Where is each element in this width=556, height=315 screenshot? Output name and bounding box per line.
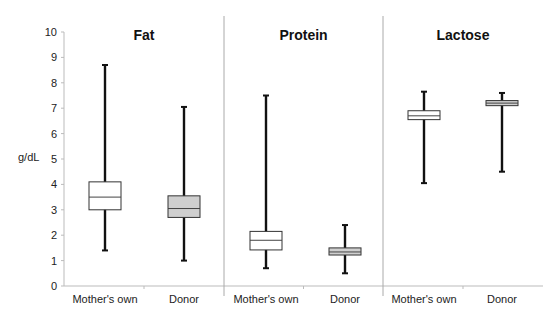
y-axis: 012345678910	[45, 26, 543, 292]
panel-title: Protein	[279, 27, 327, 43]
box-mother-s-own: Mother's own	[72, 65, 137, 305]
iqr-box	[89, 182, 121, 210]
panels: FatMother's ownDonorProteinMother's ownD…	[72, 16, 518, 305]
box-donor: Donor	[168, 107, 200, 305]
y-tick-label: 10	[45, 26, 57, 38]
y-tick-label: 1	[51, 255, 57, 267]
y-tick-label: 5	[51, 153, 57, 165]
y-tick-label: 9	[51, 51, 57, 63]
panel-lactose: LactoseMother's ownDonor	[383, 16, 518, 305]
x-category-label: Mother's own	[233, 293, 298, 305]
panel-protein: ProteinMother's ownDonor	[224, 16, 361, 305]
x-category-label: Donor	[487, 293, 517, 305]
x-category-label: Mother's own	[391, 293, 456, 305]
x-category-label: Donor	[169, 293, 199, 305]
y-tick-label: 8	[51, 77, 57, 89]
boxplot-chart: 012345678910 g/dL FatMother's ownDonorPr…	[0, 0, 556, 315]
panel-fat: FatMother's ownDonor	[72, 27, 200, 305]
y-axis-label: g/dL	[18, 151, 39, 163]
y-tick-label: 4	[51, 178, 57, 190]
x-category-label: Donor	[330, 293, 360, 305]
box-donor: Donor	[486, 93, 518, 305]
iqr-box	[408, 111, 440, 120]
y-tick-label: 3	[51, 204, 57, 216]
y-tick-label: 6	[51, 128, 57, 140]
panel-title: Fat	[134, 27, 155, 43]
x-category-label: Mother's own	[72, 293, 137, 305]
box-donor: Donor	[329, 225, 361, 305]
y-tick-label: 0	[51, 280, 57, 292]
box-mother-s-own: Mother's own	[233, 96, 298, 306]
panel-title: Lactose	[437, 27, 490, 43]
box-mother-s-own: Mother's own	[391, 92, 456, 305]
iqr-box	[168, 196, 200, 218]
y-tick-label: 7	[51, 102, 57, 114]
iqr-box	[329, 248, 361, 255]
y-tick-label: 2	[51, 229, 57, 241]
